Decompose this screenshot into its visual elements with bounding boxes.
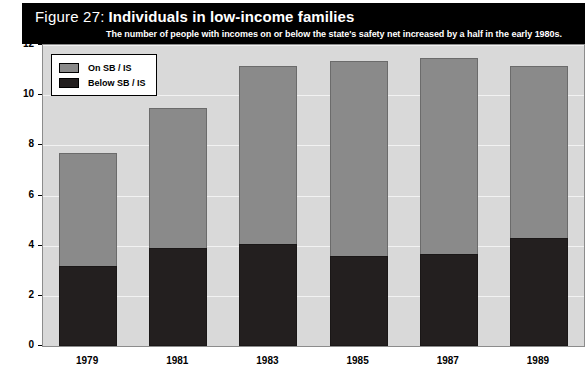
bar-segment-on-sb-is xyxy=(420,58,478,256)
y-tick-label: 10 xyxy=(8,88,34,99)
bar-segment-below-sb-is xyxy=(59,266,117,346)
page-title: Individuals in low-income families xyxy=(109,8,355,25)
gridline xyxy=(43,45,584,46)
bar-1989 xyxy=(510,66,568,346)
gridline xyxy=(43,145,584,146)
figure-number-label: Figure 27: xyxy=(35,8,105,25)
y-tick-label: 2 xyxy=(8,289,34,300)
bar-segment-on-sb-is xyxy=(149,108,207,249)
gridline xyxy=(43,246,584,247)
bar-segment-below-sb-is xyxy=(239,244,297,346)
legend-item-below-sb-is: Below SB / IS xyxy=(59,75,146,90)
x-tick-label-1981: 1981 xyxy=(147,355,207,366)
gridline xyxy=(43,296,584,297)
bar-segment-on-sb-is xyxy=(330,61,388,256)
y-tick-label: 8 xyxy=(8,138,34,149)
x-tick-label-1985: 1985 xyxy=(328,355,388,366)
bar-segment-below-sb-is xyxy=(420,254,478,346)
x-tick-label-1983: 1983 xyxy=(237,355,297,366)
y-tick-label: 4 xyxy=(8,239,34,250)
bar-segment-below-sb-is xyxy=(149,248,207,346)
bar-1985 xyxy=(330,61,388,346)
legend-swatch-below-sb-is xyxy=(59,78,79,88)
bar-segment-on-sb-is xyxy=(239,66,297,245)
legend-label-on-sb-is: On SB / IS xyxy=(88,63,132,73)
y-tick-label: 6 xyxy=(8,189,34,200)
figure-subtitle: The number of people with incomes on or … xyxy=(106,29,562,39)
y-axis: Millions of individuals 024681012 xyxy=(0,44,42,347)
y-tick-label: 12 xyxy=(8,38,34,49)
figure-header-band: Figure 27:Individuals in low-income fami… xyxy=(22,3,585,44)
bar-segment-on-sb-is xyxy=(59,153,117,267)
legend-swatch-on-sb-is xyxy=(59,63,79,73)
y-tick-label: 0 xyxy=(8,339,34,350)
x-tick-label-1979: 1979 xyxy=(57,355,117,366)
bar-segment-below-sb-is xyxy=(330,256,388,346)
legend-label-below-sb-is: Below SB / IS xyxy=(88,78,146,88)
bar-segment-below-sb-is xyxy=(510,238,568,346)
bar-1981 xyxy=(149,108,207,346)
bar-1979 xyxy=(59,153,117,346)
bar-1983 xyxy=(239,66,297,346)
bar-1987 xyxy=(420,58,478,346)
chart-legend: On SB / IS Below SB / IS xyxy=(51,54,157,96)
bar-segment-on-sb-is xyxy=(510,66,568,239)
x-tick-label-1989: 1989 xyxy=(508,355,568,366)
gridline xyxy=(43,196,584,197)
figure-title-line: Figure 27:Individuals in low-income fami… xyxy=(35,8,355,26)
legend-item-on-sb-is: On SB / IS xyxy=(59,60,146,75)
figure-screenshot: Figure 27:Individuals in low-income fami… xyxy=(0,0,587,373)
x-tick-label-1987: 1987 xyxy=(418,355,478,366)
